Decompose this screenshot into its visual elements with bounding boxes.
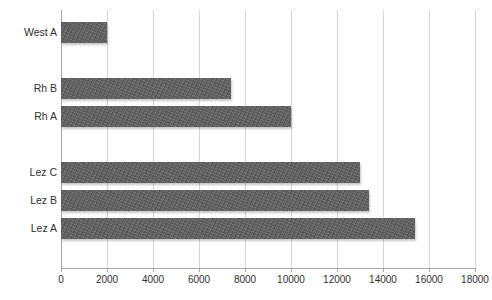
x-tick: [61, 268, 62, 272]
bar[interactable]: [61, 218, 415, 239]
bar-row: [61, 106, 475, 127]
category-label: Rh A: [3, 106, 57, 127]
x-tick: [337, 268, 338, 272]
bar-row: [61, 190, 475, 211]
x-tick: [199, 268, 200, 272]
category-axis-labels: West ARh BRh ALez CLez BLez A: [0, 10, 57, 268]
x-axis-line: [61, 268, 475, 269]
gridline: [475, 10, 476, 268]
bar-row: [61, 78, 475, 99]
x-tick-label: 16000: [415, 274, 443, 285]
bar-row: [61, 162, 475, 183]
x-tick-label: 14000: [369, 274, 397, 285]
x-tick: [291, 268, 292, 272]
x-tick-label: 10000: [277, 274, 305, 285]
category-label: Rh B: [3, 78, 57, 99]
x-tick-label: 0: [58, 274, 64, 285]
x-tick: [245, 268, 246, 272]
category-label: Lez A: [3, 218, 57, 239]
x-tick-label: 4000: [142, 274, 164, 285]
x-tick-label: 6000: [188, 274, 210, 285]
bar[interactable]: [61, 106, 291, 127]
bar[interactable]: [61, 78, 231, 99]
chart-title: [0, 0, 492, 3]
x-tick-label: 12000: [323, 274, 351, 285]
category-label: Lez B: [3, 190, 57, 211]
category-label: West A: [3, 22, 57, 43]
x-tick: [383, 268, 384, 272]
x-tick: [153, 268, 154, 272]
x-tick-label: 18000: [461, 274, 489, 285]
x-tick-label: 2000: [96, 274, 118, 285]
bar-chart: West ARh BRh ALez CLez BLez A 0200040006…: [0, 0, 492, 300]
bar[interactable]: [61, 190, 369, 211]
bar-row: [61, 218, 475, 239]
x-tick: [429, 268, 430, 272]
x-tick: [475, 268, 476, 272]
x-tick-label: 8000: [234, 274, 256, 285]
plot-area: [61, 10, 475, 268]
bar[interactable]: [61, 162, 360, 183]
x-tick: [107, 268, 108, 272]
bar[interactable]: [61, 22, 107, 43]
bar-row: [61, 22, 475, 43]
category-label: Lez C: [3, 162, 57, 183]
